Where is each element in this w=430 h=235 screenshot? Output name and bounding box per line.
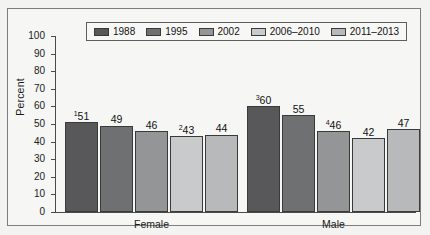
legend-swatch-icon bbox=[94, 28, 109, 36]
legend-label: 1995 bbox=[165, 27, 187, 37]
bar-value-label: 46 bbox=[146, 120, 158, 131]
bar: 243 bbox=[170, 136, 203, 212]
bar: 360 bbox=[247, 106, 280, 212]
y-tick-label-wrap: 0 bbox=[51, 212, 52, 213]
y-tick-label: 20 bbox=[34, 172, 45, 182]
legend-label: 2011–2013 bbox=[350, 27, 399, 37]
bar-value-label: 360 bbox=[256, 95, 272, 106]
bar-value-label: 243 bbox=[179, 125, 195, 136]
y-axis-line bbox=[55, 36, 56, 213]
y-axis-title: Percent bbox=[14, 78, 26, 116]
chart-legend: 1988199520022006–20102011–2013 bbox=[86, 22, 407, 41]
y-tick-label: 80 bbox=[34, 66, 45, 76]
bar-footnote-marker: 1 bbox=[74, 109, 78, 116]
y-tick-label-wrap: 90 bbox=[51, 54, 52, 55]
bar: 55 bbox=[282, 115, 315, 212]
group-label: Male bbox=[322, 218, 345, 230]
y-tick-label: 40 bbox=[34, 137, 45, 147]
y-tick-label: 30 bbox=[34, 154, 45, 164]
legend-item[interactable]: 2011–2013 bbox=[331, 27, 399, 37]
legend-swatch-icon bbox=[331, 28, 346, 36]
y-tick-label-wrap: 80 bbox=[51, 71, 52, 72]
y-tick-label-wrap: 100 bbox=[51, 36, 52, 37]
legend-label: 1988 bbox=[113, 27, 135, 37]
y-tick-label: 10 bbox=[34, 189, 45, 199]
legend-item[interactable]: 2006–2010 bbox=[251, 27, 320, 37]
y-tick-label: 0 bbox=[39, 207, 45, 217]
y-tick-label-wrap: 30 bbox=[51, 159, 52, 160]
y-tick-label-wrap: 70 bbox=[51, 89, 52, 90]
chart-figure: 0102030405060708090100 15149462434436055… bbox=[0, 0, 430, 235]
bar-value-label: 55 bbox=[293, 104, 305, 115]
bar-value-label: 49 bbox=[111, 114, 123, 125]
y-tick-label: 100 bbox=[28, 31, 45, 41]
x-axis-line bbox=[55, 212, 416, 213]
bar: 42 bbox=[352, 138, 385, 212]
legend-swatch-icon bbox=[146, 28, 161, 36]
plot-area: 0102030405060708090100 15149462434436055… bbox=[55, 36, 416, 212]
bar-value-label: 44 bbox=[216, 123, 228, 134]
y-tick-label: 50 bbox=[34, 119, 45, 129]
y-tick-label-wrap: 10 bbox=[51, 194, 52, 195]
y-tick-label-wrap: 60 bbox=[51, 106, 52, 107]
bar-value-label: 446 bbox=[326, 120, 342, 131]
bar-footnote-marker: 3 bbox=[256, 93, 260, 100]
legend-swatch-icon bbox=[251, 28, 266, 36]
legend-label: 2002 bbox=[218, 27, 240, 37]
chart-frame: 0102030405060708090100 15149462434436055… bbox=[7, 8, 421, 226]
bar-footnote-marker: 2 bbox=[179, 123, 183, 130]
y-tick-label: 60 bbox=[34, 101, 45, 111]
bar: 49 bbox=[100, 126, 133, 212]
bar-value-label: 42 bbox=[363, 127, 375, 138]
bar: 47 bbox=[387, 129, 420, 212]
legend-item[interactable]: 2002 bbox=[199, 27, 240, 37]
group-label: Female bbox=[134, 218, 169, 230]
bar: 46 bbox=[135, 131, 168, 212]
bar-footnote-marker: 4 bbox=[326, 118, 330, 125]
legend-item[interactable]: 1988 bbox=[94, 27, 135, 37]
y-tick-label: 70 bbox=[34, 84, 45, 94]
y-tick-label-wrap: 50 bbox=[51, 124, 52, 125]
bar: 44 bbox=[205, 135, 238, 212]
y-tick-label-wrap: 20 bbox=[51, 177, 52, 178]
legend-item[interactable]: 1995 bbox=[146, 27, 187, 37]
bar-value-label: 47 bbox=[398, 118, 410, 129]
legend-swatch-icon bbox=[199, 28, 214, 36]
bar-value-label: 151 bbox=[74, 111, 90, 122]
legend-label: 2006–2010 bbox=[270, 27, 320, 37]
y-tick-label: 90 bbox=[34, 49, 45, 59]
bar: 151 bbox=[65, 122, 98, 212]
bar: 446 bbox=[317, 131, 350, 212]
y-tick-label-wrap: 40 bbox=[51, 142, 52, 143]
